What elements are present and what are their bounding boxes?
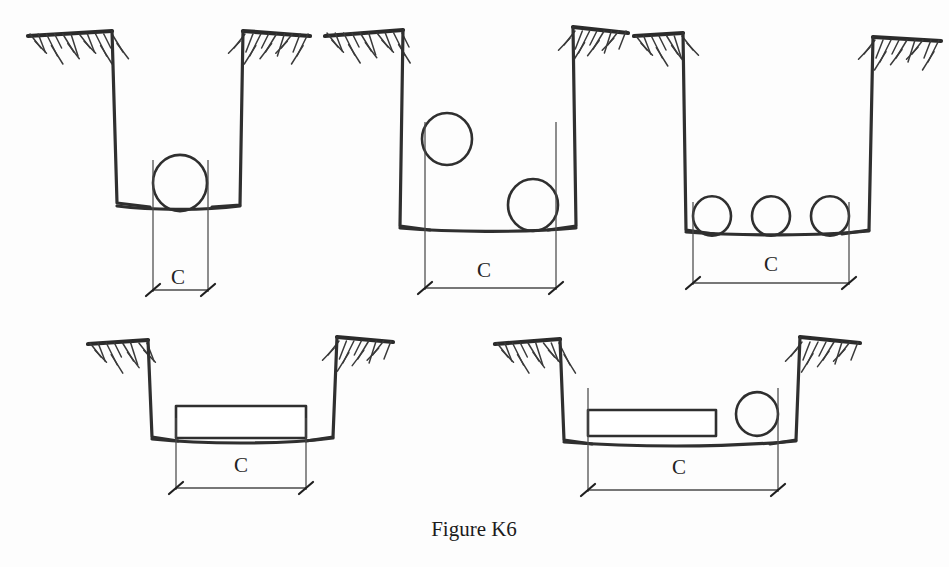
conduit-pipe-2 (752, 196, 790, 236)
trench-floor (564, 441, 796, 446)
trench-panel-p1: C (28, 31, 310, 296)
trench-wall-left (112, 31, 150, 207)
conduit-duct-bank (176, 406, 306, 438)
conduit-pipe-1 (153, 155, 207, 211)
ground-line-left (28, 31, 112, 36)
ground-hatching (327, 33, 410, 63)
trench-wall-right (548, 27, 576, 230)
dimension-label-c: C (672, 455, 686, 479)
trench-floor (117, 206, 240, 209)
figure-container: CCCCC Figure K6 (0, 0, 949, 567)
ground-hatching (859, 40, 940, 70)
ground-line-right (337, 337, 393, 342)
dimension-label-c: C (764, 252, 778, 276)
conduit-pipe-1 (422, 113, 472, 165)
ground-hatching (323, 341, 392, 371)
trench-floor (400, 228, 576, 231)
conduit-pipe-3 (811, 196, 849, 236)
trench-panel-p2: C (325, 27, 628, 294)
ground-hatching (786, 342, 859, 372)
trench-panel-p5: C (495, 337, 860, 496)
conduit-pipe-1 (693, 196, 731, 236)
ground-hatching (497, 343, 576, 373)
conduit-pipe-2 (508, 179, 558, 231)
trench-cross-section-figure: CCCCC Figure K6 (0, 0, 949, 567)
dimension-label-c: C (234, 453, 248, 477)
ground-hatching (90, 343, 155, 373)
conduit-duct-bank (588, 410, 716, 436)
trench-panel-p3: C (634, 33, 941, 289)
ground-hatching (559, 31, 627, 61)
ground-hatching (229, 34, 309, 64)
panels-layer: CCCCC (28, 27, 941, 496)
figure-caption: Figure K6 (431, 517, 517, 541)
dimension-label-c: C (171, 265, 185, 289)
trench-wall-right (306, 337, 337, 441)
trench-wall-right (212, 31, 243, 207)
trench-panel-p4: C (88, 337, 393, 494)
dimension-label-c: C (477, 258, 491, 282)
ground-line-right (800, 337, 860, 343)
ground-hatching (636, 36, 699, 66)
conduit-pipe-1 (736, 392, 778, 436)
